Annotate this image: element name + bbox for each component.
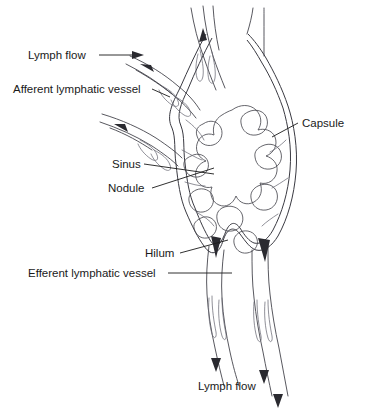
label-afferent-vessel: Afferent lymphatic vessel — [13, 83, 141, 95]
label-lymph-flow-bottom: Lymph flow — [198, 380, 256, 392]
label-lymph-flow-top: Lymph flow — [28, 49, 86, 61]
label-capsule: Capsule — [302, 117, 344, 129]
label-efferent-vessel: Efferent lymphatic vessel — [28, 267, 156, 279]
figure-background — [0, 0, 365, 419]
lymph-node-figure: Lymph flow Afferent lymphatic vessel Cap… — [0, 0, 365, 419]
label-sinus: Sinus — [112, 158, 141, 170]
lymph-node-diagram: Lymph flow Afferent lymphatic vessel Cap… — [0, 0, 365, 419]
label-nodule: Nodule — [108, 182, 144, 194]
label-hilum: Hilum — [145, 247, 174, 259]
